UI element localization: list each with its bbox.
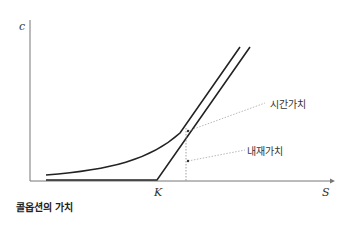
call-value-curve: [46, 47, 240, 175]
time-value-label: 시간가치: [270, 96, 306, 111]
intrinsic-value-line: [46, 47, 250, 180]
strike-label: K: [154, 186, 162, 199]
x-axis-arrow-icon: [330, 179, 335, 184]
intrinsic-value-leader: [188, 150, 245, 161]
intrinsic-value-label: 내재가치: [247, 143, 283, 158]
time-value-leader: [188, 103, 265, 131]
figure-caption: 콜옵션의 가치: [16, 199, 73, 214]
y-axis-label: c: [19, 20, 25, 33]
x-axis-label: S: [322, 186, 330, 199]
